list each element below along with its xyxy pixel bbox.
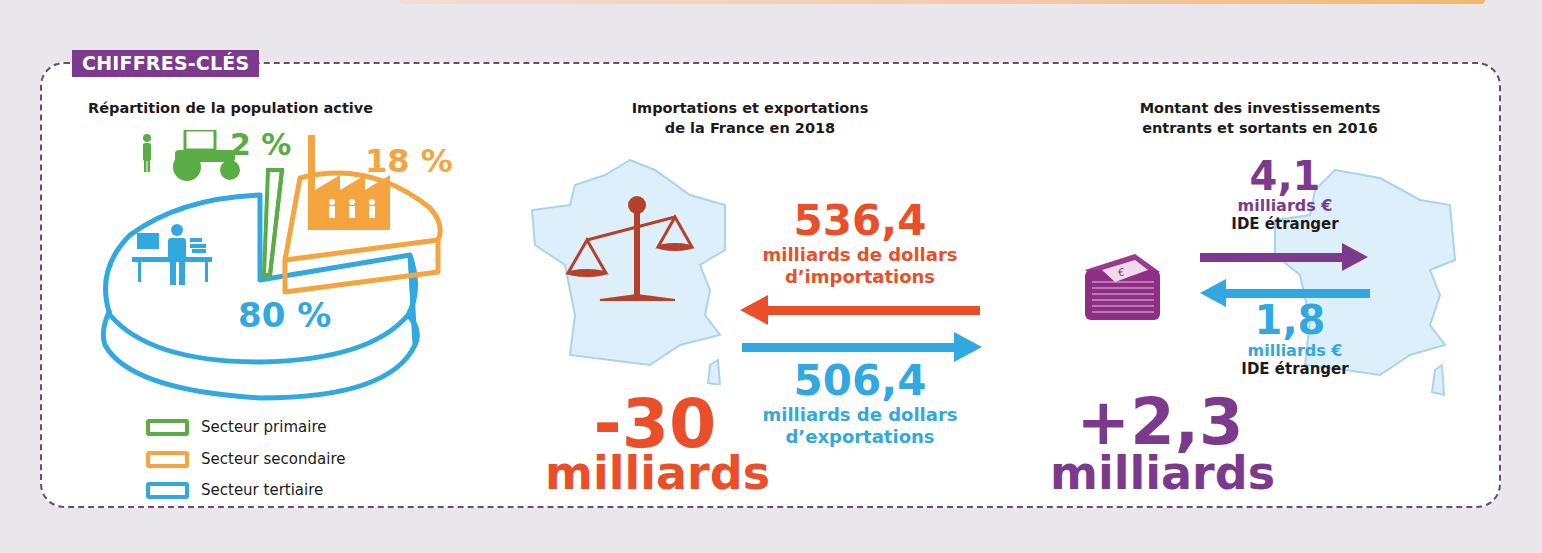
exports-value: 506,4: [760, 360, 960, 402]
tertiary-pct: 80 %: [238, 298, 331, 332]
imports-value: 536,4: [760, 200, 960, 242]
investment-balance-value: +2,3: [1060, 390, 1260, 454]
investment-out-unit: milliards €: [1225, 343, 1365, 359]
france-map-icon: [532, 160, 725, 365]
population-title: Répartition de la population active: [88, 98, 373, 118]
investment-title: Montant des investissements entrants et …: [1090, 98, 1430, 138]
imports-label: d’importations: [740, 268, 980, 286]
trade-arrows: [740, 295, 982, 365]
exports-label: d’exportations: [740, 428, 980, 446]
primary-slice: [264, 170, 282, 275]
investment-in-label: IDE étranger: [1215, 217, 1355, 232]
money-stack-icon: €: [1085, 254, 1160, 320]
legend-tertiary: Secteur tertiaire: [146, 481, 323, 499]
exports-unit: milliards de dollars: [740, 406, 980, 424]
investment-in-value: 4,1: [1225, 156, 1345, 196]
legend-swatch-orange: [146, 451, 189, 468]
corsica-icon: [1432, 365, 1444, 395]
tractor-icon: [143, 130, 240, 181]
investment-out-value: 1,8: [1230, 300, 1350, 340]
top-decorative-strip: [400, 0, 1485, 4]
legend-swatch-blue: [146, 482, 189, 499]
arrow-right-icon: [1200, 243, 1368, 271]
france-map-trade: [530, 155, 740, 385]
section-tag: CHIFFRES-CLÉS: [72, 50, 259, 77]
arrow-left-icon: [740, 295, 980, 325]
corsica-icon: [708, 360, 720, 385]
legend-primary: Secteur primaire: [146, 418, 326, 436]
trade-balance-unit: milliards: [545, 450, 765, 496]
trade-title: Importations et exportations de la Franc…: [580, 98, 920, 138]
euro-symbol-icon: €: [1118, 267, 1124, 278]
imports-unit: milliards de dollars: [740, 246, 980, 264]
legend-secondary: Secteur secondaire: [146, 450, 345, 468]
investment-out-label: IDE étranger: [1225, 362, 1365, 377]
investment-in-unit: milliards €: [1215, 198, 1355, 214]
primary-pct: 2 %: [230, 130, 291, 160]
legend-swatch-green: [146, 419, 189, 436]
investment-balance-unit: milliards: [1050, 450, 1270, 496]
secondary-pct: 18 %: [365, 145, 453, 177]
